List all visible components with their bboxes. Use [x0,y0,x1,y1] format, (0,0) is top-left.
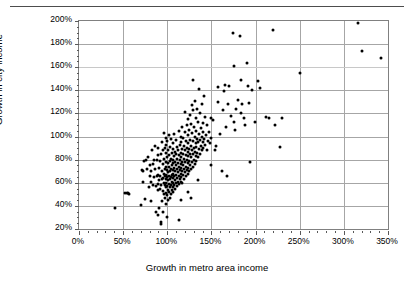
chart-container: Growth in city income Growth in metro ar… [0,0,414,288]
y-axis-tick [75,229,79,230]
scatter-point [272,29,275,32]
scatter-point [159,159,162,162]
scatter-point [158,166,161,169]
x-axis-minor-tick [203,231,204,233]
scatter-point [186,191,189,194]
x-axis-minor-tick [264,231,265,233]
header-divider [10,6,404,7]
scatter-point [192,126,195,129]
scatter-point [217,100,220,103]
y-axis-tick [75,44,79,45]
scatter-point [243,124,246,127]
scatter-point [221,170,224,173]
y-axis-minor-tick [77,108,79,109]
x-axis-minor-tick [220,231,221,233]
scatter-point [245,61,248,64]
scatter-point [214,144,217,147]
scatter-point [239,78,242,81]
y-axis-minor-tick [77,125,79,126]
y-axis-tick [75,183,79,184]
scatter-point [164,202,167,205]
scatter-point [181,126,184,129]
x-axis-minor-tick [105,231,106,233]
scatter-point [197,156,200,159]
scatter-point [360,50,363,53]
scatter-point [187,118,190,121]
scatter-point [267,117,270,120]
scatter-point [298,72,301,75]
y-axis-minor-tick [77,56,79,57]
y-axis-minor-tick [77,85,79,86]
scatter-point [193,99,196,102]
scatter-point [186,134,189,137]
y-axis-minor-tick [77,217,79,218]
x-axis-tick-label: 250% [276,236,322,246]
x-axis-tick [79,231,80,235]
scatter-point [128,193,131,196]
y-axis-tick-label: 100% [32,130,72,140]
scatter-point [182,136,185,139]
y-axis-tick [75,67,79,68]
scatter-point [204,143,207,146]
scatter-point [156,214,159,217]
x-axis-tick-label: 50% [99,236,145,246]
y-axis-minor-tick [77,102,79,103]
scatter-point [148,174,151,177]
scatter-point [188,128,191,131]
y-gridline [79,90,388,91]
y-axis-tick [75,90,79,91]
y-axis-minor-tick [77,96,79,97]
scatter-point [183,178,186,181]
scatter-point [222,90,225,93]
y-axis-tick [75,113,79,114]
scatter-point [205,134,208,137]
scatter-point [212,119,215,122]
scatter-point [165,143,168,146]
scatter-point [257,80,260,83]
scatter-point [228,84,231,87]
scatter-point [169,137,172,140]
scatter-point [202,130,205,133]
scatter-point [139,203,142,206]
scatter-point [150,200,153,203]
x-axis-tick [256,231,257,235]
y-axis-tick-label: 40% [32,199,72,209]
scatter-point [208,142,211,145]
scatter-point [198,112,201,115]
x-axis-minor-tick [185,231,186,233]
scatter-point [158,207,161,210]
scatter-point [253,120,256,123]
y-axis-tick-label: 160% [32,60,72,70]
x-axis-tick-label: 200% [232,236,278,246]
x-axis-minor-tick [370,231,371,233]
x-axis-tick [123,231,124,235]
scatter-point [171,191,174,194]
y-axis-minor-tick [77,33,79,34]
scatter-point [279,145,282,148]
scatter-point [246,84,249,87]
scatter-point [199,127,202,130]
scatter-point [160,152,163,155]
x-axis-title: Growth in metro area income [0,262,414,273]
x-axis-minor-tick [309,231,310,233]
x-axis-tick-label: 350% [364,236,410,246]
y-axis-minor-tick [77,223,79,224]
y-axis-minor-tick [77,177,79,178]
y-axis-tick-label: 80% [32,153,72,163]
x-axis-minor-tick [353,231,354,233]
scatter-point [177,129,180,132]
x-axis-tick-label: 300% [320,236,366,246]
scatter-point [379,56,382,59]
y-axis-minor-tick [77,171,79,172]
scatter-point [153,167,156,170]
y-axis-tick-label: 20% [32,222,72,232]
scatter-point [141,170,144,173]
scatter-point [167,149,170,152]
y-axis-tick-label: 180% [32,37,72,47]
plot-area [78,20,389,230]
x-axis-minor-tick [97,231,98,233]
scatter-point [144,197,147,200]
scatter-point [219,133,222,136]
scatter-point [190,122,193,125]
scatter-point [238,35,241,38]
